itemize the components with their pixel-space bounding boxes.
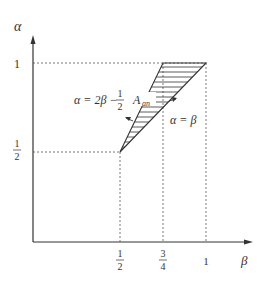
svg-text:2: 2 xyxy=(118,101,123,112)
upper-line-pointer xyxy=(125,117,133,121)
lower-line-label: α = β xyxy=(170,113,196,127)
y-axis-label: α xyxy=(14,19,22,34)
y-axis xyxy=(31,35,36,242)
svg-text:1: 1 xyxy=(118,88,123,99)
x-tick-three-quarters: 3 4 xyxy=(159,248,167,272)
svg-text:A: A xyxy=(132,93,141,107)
x-axis-label: β xyxy=(240,253,248,268)
x-axis xyxy=(33,240,253,245)
x-tick-half: 1 2 xyxy=(116,248,124,272)
y-axis-arrow-icon xyxy=(31,35,36,44)
alpha-beta-region-diagram: α β 1 1 2 1 2 3 4 1 α = 2β − 1 2 α = β A… xyxy=(0,0,266,283)
svg-text:3: 3 xyxy=(161,248,166,259)
y-tick-1: 1 xyxy=(14,57,20,71)
svg-text:1: 1 xyxy=(118,248,123,259)
svg-text:2: 2 xyxy=(118,261,123,272)
y-tick-half: 1 2 xyxy=(13,138,21,162)
svg-text:4: 4 xyxy=(161,261,166,272)
svg-text:1: 1 xyxy=(15,138,20,149)
x-tick-1: 1 xyxy=(203,255,209,267)
x-axis-arrow-icon xyxy=(244,240,253,245)
svg-text:α = 2β −: α = 2β − xyxy=(74,93,117,107)
svg-text:2: 2 xyxy=(15,151,20,162)
svg-text:an: an xyxy=(142,99,150,108)
upper-line-label: α = 2β − 1 2 xyxy=(74,88,124,112)
